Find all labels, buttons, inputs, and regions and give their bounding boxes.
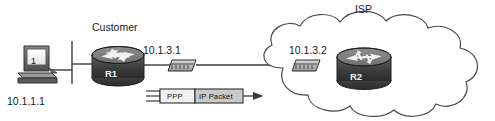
- ppp-header-label: PPP: [167, 93, 183, 101]
- router1-name-label: R1: [105, 69, 117, 79]
- diagram-canvas: [0, 0, 495, 121]
- host-ip-label: 10.1.1.1: [7, 96, 45, 107]
- csu-dsu-icon-1: [168, 60, 196, 71]
- customer-label: Customer: [92, 22, 138, 33]
- host-number-label: 1: [31, 57, 36, 66]
- router2-name-label: R2: [350, 72, 362, 82]
- csu-dsu-icon-2: [292, 60, 320, 71]
- network-diagram: Customer ISP 10.1.3.1 10.1.3.2 10.1.1.1 …: [0, 0, 495, 121]
- isp-label: ISP: [355, 4, 372, 15]
- router-icon-r2: [337, 48, 391, 90]
- lan-segment-group: [51, 41, 95, 84]
- r1-serial-ip-label: 10.1.3.1: [143, 45, 181, 56]
- r2-serial-ip-label: 10.1.3.2: [289, 45, 327, 56]
- ip-packet-label: IP Packet: [199, 93, 233, 101]
- router-icon-r1: [92, 47, 144, 87]
- workstation-icon: [18, 46, 57, 83]
